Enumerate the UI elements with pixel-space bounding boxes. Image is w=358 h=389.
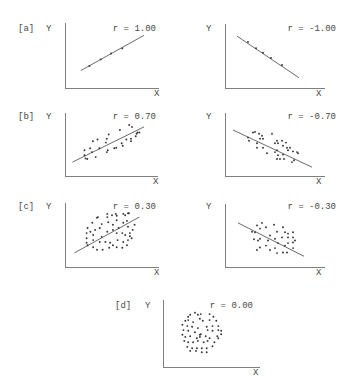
data-point [206, 326, 208, 328]
data-point [274, 238, 276, 240]
data-point [126, 244, 128, 246]
regression-line [238, 223, 304, 256]
panel-a-right: Y r = -1.00 X [206, 24, 336, 99]
panel-a-left: [a] Y r = 1.00 X [18, 23, 160, 99]
data-point [92, 234, 94, 236]
data-point [284, 231, 286, 233]
data-point [121, 232, 123, 234]
data-point [84, 154, 86, 156]
data-point [86, 242, 88, 244]
data-point [106, 216, 108, 218]
y-axis-label: Y [206, 112, 212, 122]
panel-c-right: Y r = -0.30 X [206, 202, 336, 278]
data-point [124, 214, 126, 216]
data-point [257, 240, 259, 242]
data-point [212, 325, 214, 327]
data-point [283, 158, 285, 160]
data-point [287, 233, 289, 235]
data-point [265, 245, 267, 247]
data-point [282, 145, 284, 147]
data-point [106, 213, 108, 215]
data-point [282, 226, 284, 228]
data-point [113, 147, 115, 149]
data-point [186, 346, 188, 348]
regression-line [233, 130, 312, 167]
data-point [121, 247, 123, 249]
data-point [129, 232, 131, 234]
data-point [101, 236, 103, 238]
data-point [116, 219, 118, 221]
y-axis-label: Y [46, 112, 52, 122]
data-point [259, 228, 261, 230]
y-axis-label: Y [46, 24, 52, 34]
data-point [197, 314, 199, 316]
data-point [96, 249, 98, 251]
data-point [131, 126, 133, 128]
data-point [209, 313, 211, 315]
data-point [262, 138, 264, 140]
data-point [206, 347, 208, 349]
data-point [127, 226, 129, 228]
data-point [89, 147, 91, 149]
data-point [189, 314, 191, 316]
data-point [277, 242, 279, 244]
data-point [256, 142, 258, 144]
data-point [258, 133, 260, 135]
data-point [276, 252, 278, 254]
y-axis-label: Y [145, 301, 151, 311]
data-point [181, 324, 183, 326]
data-point [287, 242, 289, 244]
data-point [112, 224, 114, 226]
correlation-label: r = 0.00 [210, 301, 253, 311]
data-point [121, 47, 123, 49]
data-point [256, 249, 258, 251]
correlation-label: r = -1.00 [287, 24, 336, 34]
data-point [130, 138, 132, 140]
data-point [282, 252, 284, 254]
data-point [254, 231, 256, 233]
data-point [95, 156, 97, 158]
data-point [97, 216, 99, 218]
data-point [293, 159, 295, 161]
data-point [259, 247, 261, 249]
correlation-label: r = 1.00 [113, 24, 156, 34]
data-point [112, 244, 114, 246]
data-point [100, 58, 102, 60]
panel-c-left: [c] Y r = 0.30 X [18, 202, 160, 278]
data-point [192, 321, 194, 323]
data-point [126, 220, 128, 222]
data-point [89, 231, 91, 233]
data-point [220, 330, 222, 332]
data-point [108, 247, 110, 249]
panel-label: [a] [18, 24, 34, 34]
scatter-points [88, 47, 123, 66]
data-point [88, 65, 90, 67]
data-point [94, 229, 96, 231]
data-point [252, 132, 254, 134]
data-point [216, 335, 218, 337]
data-point [194, 312, 196, 314]
data-point [105, 142, 107, 144]
data-point [269, 249, 271, 251]
data-point [101, 223, 103, 225]
panel-b-right: Y r = -0.70 X [206, 112, 336, 187]
data-point [286, 252, 288, 254]
data-point [277, 154, 279, 156]
data-point [98, 147, 100, 149]
data-point [92, 239, 94, 241]
data-point [259, 138, 261, 140]
data-point [212, 345, 214, 347]
data-point [196, 337, 198, 339]
data-point [97, 139, 99, 141]
data-point [116, 246, 118, 248]
data-point [292, 150, 294, 152]
data-point [279, 158, 281, 160]
scatter-points [247, 41, 283, 66]
data-point [197, 340, 199, 342]
data-point [187, 316, 189, 318]
x-axis-label: X [316, 177, 322, 187]
data-point [265, 226, 267, 228]
data-point [292, 231, 294, 233]
data-point [115, 147, 117, 149]
data-point [292, 236, 294, 238]
